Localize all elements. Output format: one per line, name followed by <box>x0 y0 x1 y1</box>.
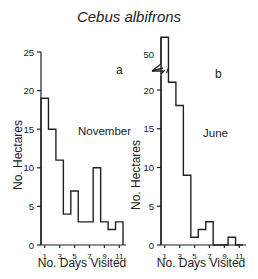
chart-b-month-label: June <box>203 127 228 139</box>
chart-b-y-tick-labels: 0510152050 <box>143 49 154 251</box>
chart-a-x-axis-label: No. Days Visited <box>38 256 126 270</box>
chart-a-month-label: November <box>78 125 131 137</box>
svg-text:5: 5 <box>29 201 34 212</box>
svg-text:10: 10 <box>23 162 34 173</box>
chart-a-y-tick-labels: 0510152025 <box>23 47 34 251</box>
chart-b-x-axis-label: No. Days Visited <box>157 256 245 270</box>
svg-text:20: 20 <box>143 85 154 96</box>
svg-text:20: 20 <box>23 85 34 96</box>
svg-text:50: 50 <box>143 49 154 60</box>
svg-text:10: 10 <box>143 162 154 173</box>
chart-panel-a: 0510152025 1357911 a November No. Days V… <box>11 47 131 271</box>
chart-a-axes <box>37 52 126 248</box>
svg-text:15: 15 <box>23 124 34 135</box>
chart-b-y-axis-label: No. Hectares <box>129 140 143 210</box>
svg-text:0: 0 <box>29 240 34 251</box>
svg-text:25: 25 <box>23 47 34 58</box>
chart-b-axes <box>152 37 246 248</box>
svg-text:0: 0 <box>149 240 154 251</box>
chart-panel-b: 0510152050 1357911 b June No. Days Visit… <box>129 37 246 270</box>
svg-text:15: 15 <box>143 123 154 134</box>
chart-a-histogram <box>41 98 123 245</box>
figure-title: Cebus albifrons <box>77 8 182 25</box>
svg-text:5: 5 <box>149 201 154 212</box>
chart-b-panel-letter: b <box>215 67 222 81</box>
figure: Cebus albifrons 0510152025 1357911 a Nov… <box>0 0 258 279</box>
chart-a-panel-letter: a <box>116 63 123 77</box>
chart-b-histogram <box>161 37 243 245</box>
chart-a-y-axis-label: No. Hectares <box>11 120 25 190</box>
